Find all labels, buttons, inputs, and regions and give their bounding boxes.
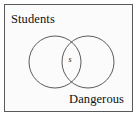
set-label-students: Students xyxy=(11,13,55,26)
set-label-dangerous: Dangerous xyxy=(69,93,124,106)
venn-diagram-figure: Students Dangerous s xyxy=(0,0,140,118)
intersection-region-label: s xyxy=(64,56,76,64)
